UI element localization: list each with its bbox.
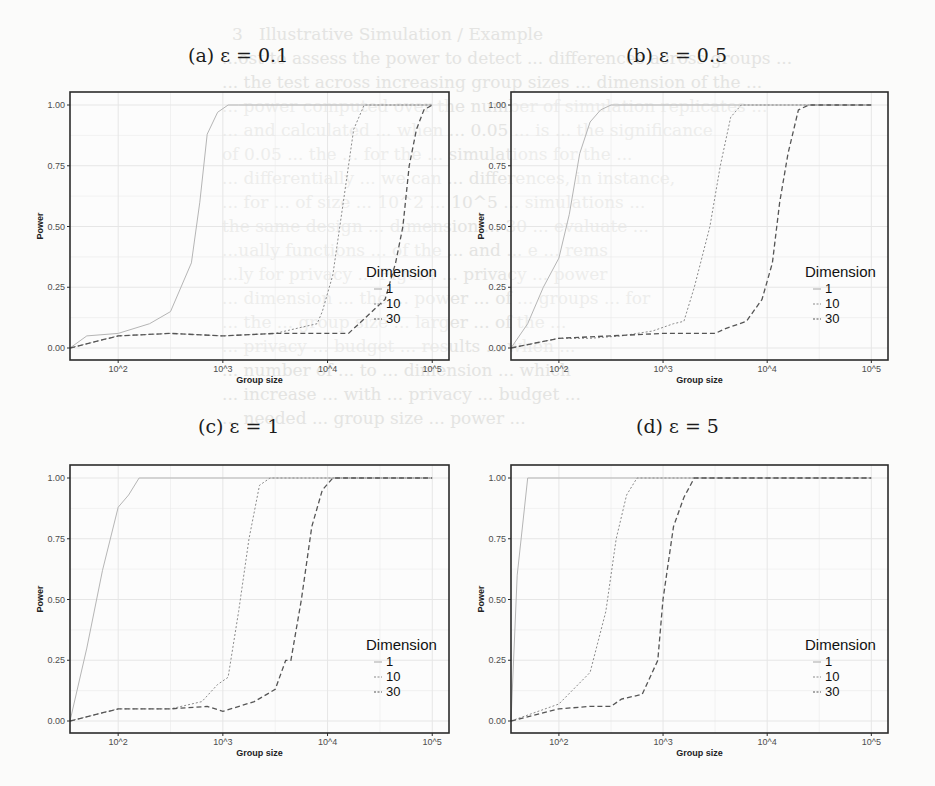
y-tick-label: 1.00 bbox=[488, 473, 506, 483]
chart-panel-d: 0.000.250.500.751.0010^210^310^410^5Grou… bbox=[476, 465, 888, 758]
x-tick-label: 10^5 bbox=[862, 364, 881, 374]
y-tick-label: 0.75 bbox=[47, 534, 65, 544]
y-tick-label: 0.25 bbox=[47, 282, 65, 292]
legend-title: Dimension bbox=[805, 263, 876, 280]
y-axis-title: Power bbox=[476, 212, 486, 240]
x-tick-label: 10^2 bbox=[549, 364, 568, 374]
chart-panel-c: 0.000.250.500.751.0010^210^310^410^5Grou… bbox=[35, 465, 449, 758]
legend-title: Dimension bbox=[805, 636, 876, 653]
legend-label-30: 30 bbox=[386, 684, 400, 699]
y-tick-label: 1.00 bbox=[47, 473, 65, 483]
y-axis-title: Power bbox=[35, 585, 45, 613]
y-tick-label: 0.00 bbox=[47, 343, 65, 353]
y-tick-label: 0.50 bbox=[47, 222, 65, 232]
x-axis-title: Group size bbox=[676, 748, 723, 758]
chart-panel-b: 0.000.250.500.751.0010^210^310^410^5Grou… bbox=[476, 92, 888, 385]
x-axis-title: Group size bbox=[236, 748, 283, 758]
y-tick-label: 1.00 bbox=[47, 100, 65, 110]
y-tick-label: 0.75 bbox=[47, 161, 65, 171]
figure-canvas: 0.000.250.500.751.0010^210^310^410^5Grou… bbox=[0, 0, 935, 786]
x-tick-label: 10^3 bbox=[213, 737, 232, 747]
x-axis-title: Group size bbox=[236, 375, 283, 385]
legend-label-1: 1 bbox=[825, 281, 832, 296]
legend-label-1: 1 bbox=[825, 654, 832, 669]
y-tick-label: 0.00 bbox=[488, 343, 506, 353]
y-tick-label: 0.00 bbox=[47, 716, 65, 726]
legend-label-10: 10 bbox=[825, 669, 839, 684]
y-tick-label: 0.50 bbox=[488, 595, 506, 605]
chart-panel-a: 0.000.250.500.751.0010^210^310^410^5Grou… bbox=[35, 92, 449, 385]
legend-label-1: 1 bbox=[386, 654, 393, 669]
legend-title: Dimension bbox=[366, 636, 437, 653]
legend-label-1: 1 bbox=[386, 281, 393, 296]
x-tick-label: 10^2 bbox=[109, 364, 128, 374]
x-tick-label: 10^2 bbox=[109, 737, 128, 747]
legend-label-30: 30 bbox=[386, 311, 400, 326]
x-axis-title: Group size bbox=[676, 375, 723, 385]
y-tick-label: 0.75 bbox=[488, 534, 506, 544]
legend-title: Dimension bbox=[366, 263, 437, 280]
y-tick-label: 0.50 bbox=[488, 222, 506, 232]
y-tick-label: 0.00 bbox=[488, 716, 506, 726]
legend-label-30: 30 bbox=[825, 684, 839, 699]
legend-label-10: 10 bbox=[825, 296, 839, 311]
y-tick-label: 0.25 bbox=[488, 655, 506, 665]
x-tick-label: 10^3 bbox=[213, 364, 232, 374]
x-tick-label: 10^2 bbox=[549, 737, 568, 747]
y-tick-label: 0.25 bbox=[47, 655, 65, 665]
y-tick-label: 0.75 bbox=[488, 161, 506, 171]
y-tick-label: 1.00 bbox=[488, 100, 506, 110]
y-axis-title: Power bbox=[35, 212, 45, 240]
x-tick-label: 10^3 bbox=[653, 737, 672, 747]
x-tick-label: 10^4 bbox=[318, 737, 337, 747]
y-axis-title: Power bbox=[476, 585, 486, 613]
x-tick-label: 10^5 bbox=[862, 737, 881, 747]
x-tick-label: 10^4 bbox=[758, 737, 777, 747]
x-tick-label: 10^3 bbox=[653, 364, 672, 374]
legend-label-30: 30 bbox=[825, 311, 839, 326]
x-tick-label: 10^5 bbox=[423, 364, 442, 374]
y-tick-label: 0.25 bbox=[488, 282, 506, 292]
x-tick-label: 10^5 bbox=[423, 737, 442, 747]
legend-label-10: 10 bbox=[386, 296, 400, 311]
x-tick-label: 10^4 bbox=[758, 364, 777, 374]
y-tick-label: 0.50 bbox=[47, 595, 65, 605]
legend-label-10: 10 bbox=[386, 669, 400, 684]
x-tick-label: 10^4 bbox=[318, 364, 337, 374]
